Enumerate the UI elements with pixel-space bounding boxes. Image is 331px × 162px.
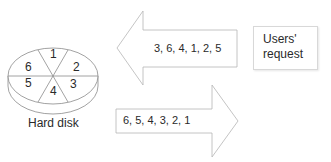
sector-3: 3 [70, 77, 77, 91]
incoming-sequence: 3, 6, 4, 1, 2, 5 [154, 42, 221, 54]
diagram-canvas [0, 0, 331, 162]
sector-4: 4 [50, 84, 57, 98]
sector-2: 2 [73, 60, 80, 74]
sector-6: 6 [25, 60, 32, 74]
users-request-box: Users' request [253, 26, 318, 70]
request-line-1: Users' [263, 32, 297, 46]
disk-label: Hard disk [28, 116, 79, 130]
sector-1: 1 [50, 47, 57, 61]
sector-5: 5 [25, 76, 32, 90]
request-line-2: request [263, 47, 303, 61]
outgoing-sequence: 6, 5, 4, 3, 2, 1 [123, 114, 190, 126]
